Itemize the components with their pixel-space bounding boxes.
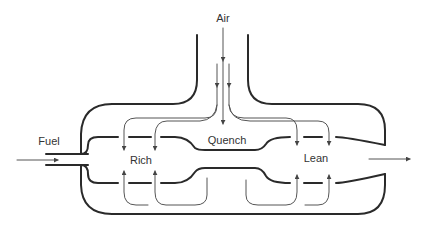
- outer-casing: [81, 35, 385, 214]
- fuel-label: Fuel: [38, 135, 59, 147]
- liner-bottom: [81, 165, 385, 183]
- air-flow-lines: [124, 28, 329, 150]
- air-label: Air: [216, 12, 230, 24]
- quench-zone-label: Quench: [208, 134, 247, 146]
- lean-zone-label: Lean: [304, 152, 328, 164]
- combustor-diagram: Air Fuel Rich Quench Lean: [0, 0, 425, 230]
- rich-zone-label: Rich: [130, 154, 152, 166]
- bottom-flow-lines: [124, 171, 329, 205]
